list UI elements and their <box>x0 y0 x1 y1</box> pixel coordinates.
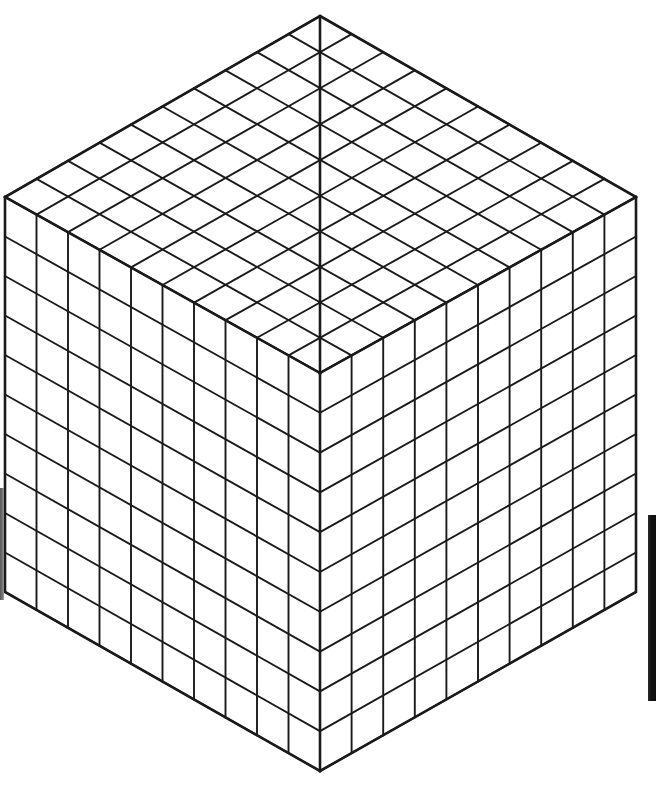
right-edge-scan-bar <box>648 515 656 701</box>
figure-canvas <box>0 0 658 788</box>
left-edge-scan-smudge <box>0 488 4 600</box>
isometric-cube-diagram <box>0 0 658 788</box>
